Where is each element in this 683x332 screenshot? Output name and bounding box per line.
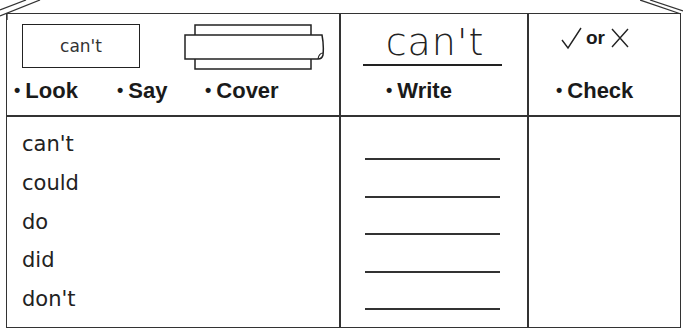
write-line-3[interactable] (365, 233, 500, 235)
step-write-label: Write (397, 78, 452, 103)
step-check-label: Check (567, 78, 633, 103)
model-baseline (363, 64, 502, 66)
word-item: do (22, 209, 48, 235)
model-handwritten-word: can't (380, 20, 490, 64)
step-say-label: Say (128, 78, 167, 103)
bullet-icon: • (556, 80, 562, 100)
look-word-card: can't (22, 24, 140, 68)
step-look-label: Look (25, 78, 78, 103)
step-look: •Look (14, 78, 78, 104)
bullet-icon: • (117, 80, 123, 100)
bullet-icon: • (14, 80, 20, 100)
step-cover: •Cover (205, 78, 279, 104)
column-divider-write (339, 13, 341, 328)
word-item: can't (22, 131, 74, 157)
step-write: •Write (386, 78, 452, 104)
step-cover-label: Cover (216, 78, 278, 103)
bullet-icon: • (386, 80, 392, 100)
write-line-2[interactable] (365, 196, 500, 198)
cross-icon (609, 26, 631, 50)
write-line-5[interactable] (365, 308, 500, 310)
step-check: •Check (556, 78, 633, 104)
folded-paper-icon (182, 23, 326, 71)
check-column-cell[interactable] (529, 118, 679, 326)
look-word: can't (60, 36, 102, 56)
write-line-4[interactable] (365, 271, 500, 273)
tick-icon (560, 26, 582, 50)
header-row-divider (6, 115, 681, 117)
check-symbols: or (560, 26, 631, 50)
word-item: don't (22, 286, 76, 312)
bullet-icon: • (205, 80, 211, 100)
write-line-1[interactable] (365, 158, 500, 160)
or-label: or (586, 27, 605, 49)
word-item: could (22, 170, 79, 196)
step-say: •Say (117, 78, 167, 104)
word-item: did (22, 247, 55, 273)
